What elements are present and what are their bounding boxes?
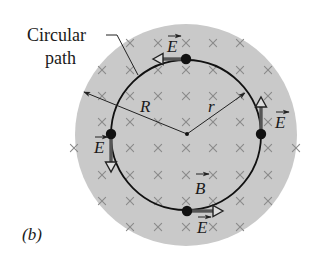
e-field-label: E — [196, 218, 208, 237]
e-field-label: E — [274, 113, 286, 132]
circular-path-label-line2: path — [45, 48, 76, 68]
circular-path-label-line1: Circular — [27, 25, 86, 45]
path-point-dot — [181, 54, 191, 64]
path-point-dot — [256, 129, 266, 139]
path-point-dot — [106, 129, 116, 139]
center-point — [185, 132, 189, 136]
b-field-label: B — [195, 179, 206, 198]
path-point-dot — [182, 206, 192, 216]
e-field-label: E — [166, 37, 178, 56]
small-radius-label: r — [208, 97, 215, 116]
panel-label: (b) — [22, 225, 42, 244]
induced-electric-field-diagram: R r EEEE B Circular path (b) — [0, 0, 319, 263]
e-field-label: E — [93, 138, 105, 157]
big-radius-label: R — [139, 97, 151, 116]
